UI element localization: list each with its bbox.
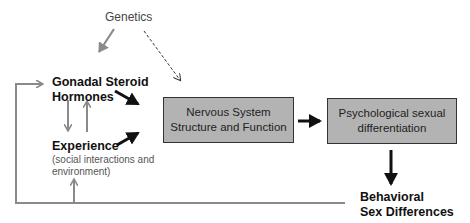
node-nervous-system: Nervous System Structure and Function <box>163 97 294 143</box>
arrow-genetics-to-hormones <box>99 29 114 52</box>
behavioral-line2: Sex Differences <box>360 205 454 220</box>
node-experience: Experience (social interactions and envi… <box>52 139 154 178</box>
psych-line1: Psychological sexual <box>339 106 446 121</box>
node-gonadal-steroid-hormones: Gonadal Steroid Hormones <box>52 75 149 105</box>
experience-sub-line2: environment) <box>52 166 154 178</box>
gonadal-line1: Gonadal Steroid <box>52 75 149 90</box>
nervous-line2: Structure and Function <box>170 120 286 135</box>
nervous-line1: Nervous System <box>170 105 286 120</box>
experience-sub-line1: (social interactions and <box>52 154 154 166</box>
experience-title: Experience <box>52 139 154 154</box>
node-behavioral-sex-differences: Behavioral Sex Differences <box>360 190 454 220</box>
node-psychological-sexual-differentiation: Psychological sexual differentiation <box>327 98 457 144</box>
psych-line2: differentiation <box>339 121 446 136</box>
behavioral-line1: Behavioral <box>360 190 454 205</box>
gonadal-line2: Hormones <box>52 90 149 105</box>
node-genetics: Genetics <box>105 10 152 24</box>
arrow-genetics-to-nervous-dashed <box>144 31 180 80</box>
